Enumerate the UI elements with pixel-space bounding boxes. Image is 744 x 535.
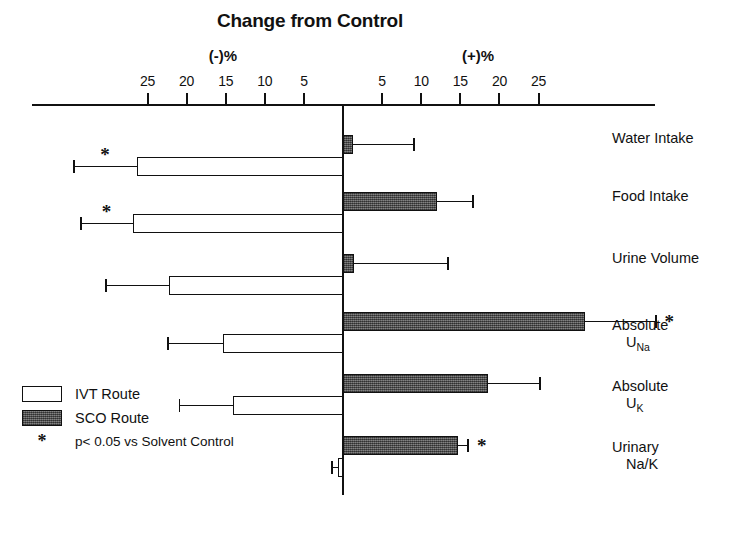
tick-label: 5 — [367, 73, 397, 89]
bar-sco-5 — [343, 436, 458, 455]
bar-ivt-0 — [137, 157, 343, 176]
tick-mark — [538, 93, 540, 104]
category-label-line1: Urine Volume — [612, 250, 699, 266]
legend-label-sco: SCO Route — [75, 410, 149, 426]
tick-mark — [186, 93, 188, 104]
category-label-line1: Food Intake — [612, 188, 689, 204]
category-label-0: Water Intake — [612, 130, 694, 147]
bar-ivt-1 — [133, 214, 343, 233]
legend-item-sco: SCO Route — [22, 406, 234, 430]
category-label-subscript: Na — [636, 341, 649, 353]
category-label-line1: Water Intake — [612, 130, 694, 146]
legend-label-ivt: IVT Route — [75, 386, 140, 402]
tick-label: 10 — [250, 73, 280, 89]
chart-title: Change from Control — [0, 10, 620, 32]
significance-star-ivt-1: * — [102, 207, 112, 217]
bar-ivt-2 — [169, 276, 343, 295]
chart-container: Change from Control (-)% (+)% 2520151055… — [0, 0, 744, 535]
tick-label: 20 — [484, 73, 514, 89]
tick-label: 15 — [211, 73, 241, 89]
tick-mark — [147, 93, 149, 104]
tick-label: 25 — [524, 73, 554, 89]
category-label-2: Urine Volume — [612, 250, 699, 267]
errorbar-sco-0-line — [353, 144, 415, 146]
errorbar-ivt-0-cap — [73, 160, 75, 173]
bar-ivt-4 — [233, 396, 343, 415]
category-label-line1: Absolute — [612, 378, 668, 394]
tick-mark — [264, 93, 266, 104]
tick-label: 15 — [445, 73, 475, 89]
chart-legend: IVT Route SCO Route * p< 0.05 vs Solvent… — [22, 382, 234, 452]
errorbar-ivt-1-line — [80, 223, 133, 225]
errorbar-sco-4-line — [488, 383, 541, 385]
errorbar-sco-2-cap — [447, 257, 449, 270]
errorbar-sco-1-line — [437, 201, 474, 203]
category-label-subscript: K — [636, 402, 643, 414]
errorbar-ivt-2-cap — [105, 279, 107, 292]
tick-label: 25 — [133, 73, 163, 89]
tick-mark — [459, 93, 461, 104]
tick-mark — [225, 93, 227, 104]
bar-sco-1 — [343, 192, 437, 211]
tick-mark — [303, 93, 305, 104]
legend-label-significance: p< 0.05 vs Solvent Control — [75, 434, 234, 449]
errorbar-ivt-2-line — [105, 285, 168, 287]
bar-sco-0 — [343, 135, 353, 154]
category-label-line1: Absolute — [612, 317, 668, 333]
category-label-line2: UK — [612, 395, 668, 417]
errorbar-sco-5-cap — [467, 439, 469, 452]
category-label-5: UrinaryNa/K — [612, 439, 659, 473]
asterisk-icon: * — [22, 431, 62, 452]
errorbar-ivt-1-cap — [80, 217, 82, 230]
bar-ivt-3 — [223, 334, 343, 353]
category-label-line2: Na/K — [612, 456, 659, 473]
category-label-4: AbsoluteUK — [612, 378, 668, 417]
bar-sco-4 — [343, 374, 488, 393]
legend-item-significance: * p< 0.05 vs Solvent Control — [22, 430, 234, 452]
tick-mark — [420, 93, 422, 104]
errorbar-ivt-3-line — [167, 343, 223, 345]
legend-swatch-ivt-icon — [22, 386, 62, 402]
errorbar-sco-2-line — [354, 263, 449, 265]
significance-star-sco-5: * — [477, 441, 487, 451]
legend-swatch-sco-icon — [22, 410, 62, 426]
tick-mark — [381, 93, 383, 104]
bar-ivt-5 — [338, 458, 343, 477]
category-label-line1: Urinary — [612, 439, 659, 455]
significance-star-ivt-0: * — [100, 150, 110, 160]
category-label-line2: UNa — [612, 334, 668, 356]
tick-label: 5 — [289, 73, 319, 89]
tick-mark — [498, 93, 500, 104]
legend-item-ivt: IVT Route — [22, 382, 234, 406]
errorbar-ivt-5-cap — [331, 461, 333, 474]
category-label-1: Food Intake — [612, 188, 689, 205]
tick-label: 10 — [406, 73, 436, 89]
bar-sco-2 — [343, 254, 354, 273]
errorbar-ivt-0-line — [73, 166, 137, 168]
bar-sco-3 — [343, 312, 585, 331]
negative-percent-label: (-)% — [193, 47, 253, 64]
errorbar-ivt-3-cap — [167, 337, 169, 350]
errorbar-sco-1-cap — [472, 195, 474, 208]
category-label-3: AbsoluteUNa — [612, 317, 668, 356]
errorbar-sco-0-cap — [413, 138, 415, 151]
positive-percent-label: (+)% — [448, 47, 508, 64]
errorbar-sco-4-cap — [539, 377, 541, 390]
tick-label: 20 — [172, 73, 202, 89]
